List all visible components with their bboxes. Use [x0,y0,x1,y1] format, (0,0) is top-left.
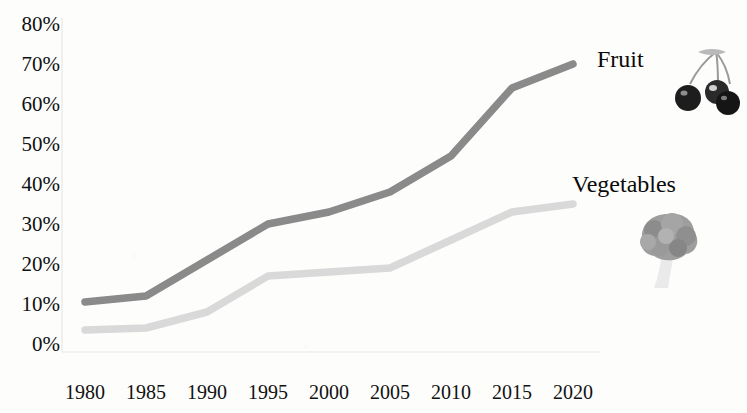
y-tick-label-10: 10% [2,294,60,315]
x-tick-label-1995: 1995 [237,381,299,403]
x-tick-label-2005: 2005 [359,381,421,403]
y-tick-label-60: 60% [2,94,60,115]
axis-lines [62,18,600,352]
series-line-fruit [85,64,573,302]
y-tick-label-80: 80% [2,14,60,35]
y-tick-label-70: 70% [2,54,60,75]
y-tick-label-0: 0% [2,334,60,355]
y-tick-label-20: 20% [2,254,60,275]
series-line-vegetables [85,204,573,330]
y-axis: 80% 70% 60% 50% 40% 30% 20% 10% 0% [0,0,60,413]
x-tick-label-1980: 1980 [54,381,116,403]
series-label-vegetables: Vegetables [572,171,676,197]
y-tick-label-40: 40% [2,174,60,195]
x-tick-label-2015: 2015 [481,381,543,403]
y-tick-label-30: 30% [2,214,60,235]
broccoli-icon [628,202,708,290]
x-tick-label-2020: 2020 [542,381,604,403]
y-tick-label-50: 50% [2,134,60,155]
fruit-vegetable-trend-chart: 80% 70% 60% 50% 40% 30% 20% 10% 0% 1980 … [0,0,747,413]
x-tick-label-2000: 2000 [298,381,360,403]
x-tick-label-1990: 1990 [176,381,238,403]
series-lines [85,64,573,330]
x-tick-label-2010: 2010 [420,381,482,403]
series-label-fruit: Fruit [597,46,644,72]
x-tick-label-1985: 1985 [115,381,177,403]
cherries-icon [668,46,740,128]
